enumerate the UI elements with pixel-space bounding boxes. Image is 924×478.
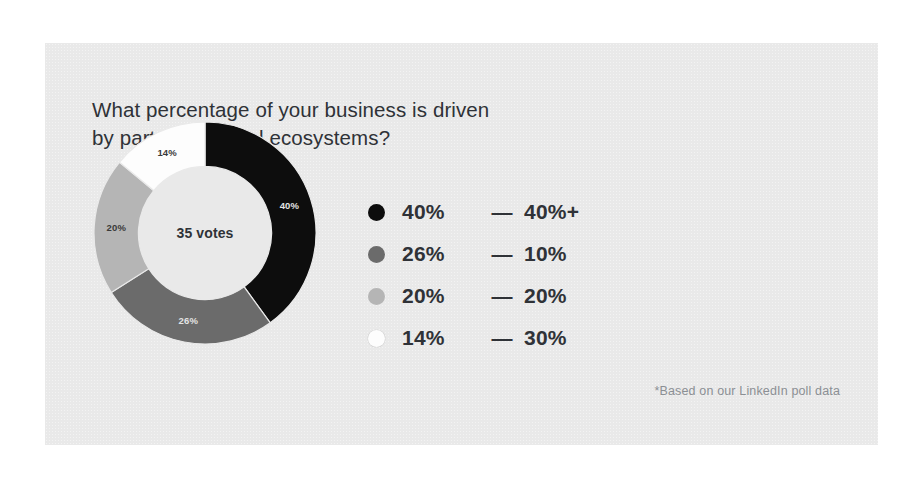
legend-share-10: 26% <box>402 242 480 266</box>
legend-item-20: 20% — 20% <box>368 275 579 317</box>
legend-swatch-icon-20 <box>368 288 385 305</box>
chart-legend: 40% — 40%+ 26% — 10% 20% — 20% 14% — 30% <box>368 191 579 359</box>
legend-dash-10: — <box>480 242 524 266</box>
legend-share-30: 14% <box>402 326 480 350</box>
donut-slice-label-40: 40% <box>280 200 300 211</box>
footnote: *Based on our LinkedIn poll data <box>655 384 841 398</box>
donut-hole <box>139 167 271 299</box>
donut-chart: 40%26%20%14% 35 votes <box>92 120 318 346</box>
legend-swatch-icon-10 <box>368 246 385 263</box>
legend-share-20: 20% <box>402 284 480 308</box>
legend-dash-30: — <box>480 326 524 350</box>
poll-card: What percentage of your business is driv… <box>45 43 878 445</box>
legend-bucket-10: 10% <box>524 242 567 266</box>
legend-item-30: 14% — 30% <box>368 317 579 359</box>
legend-dash-40plus: — <box>480 200 524 224</box>
legend-dash-20: — <box>480 284 524 308</box>
legend-item-40plus: 40% — 40%+ <box>368 191 579 233</box>
donut-slice-group <box>94 122 316 344</box>
legend-bucket-20: 20% <box>524 284 567 308</box>
donut-slice-label-10: 26% <box>179 315 199 326</box>
donut-chart-svg: 40%26%20%14% <box>92 120 318 346</box>
donut-slice-label-20: 20% <box>107 222 127 233</box>
legend-item-10: 26% — 10% <box>368 233 579 275</box>
legend-swatch-icon-30 <box>368 330 385 347</box>
legend-bucket-40plus: 40%+ <box>524 200 579 224</box>
legend-bucket-30: 30% <box>524 326 567 350</box>
legend-share-40plus: 40% <box>402 200 480 224</box>
donut-slice-label-30: 14% <box>157 147 177 158</box>
legend-swatch-icon-40plus <box>368 204 385 221</box>
